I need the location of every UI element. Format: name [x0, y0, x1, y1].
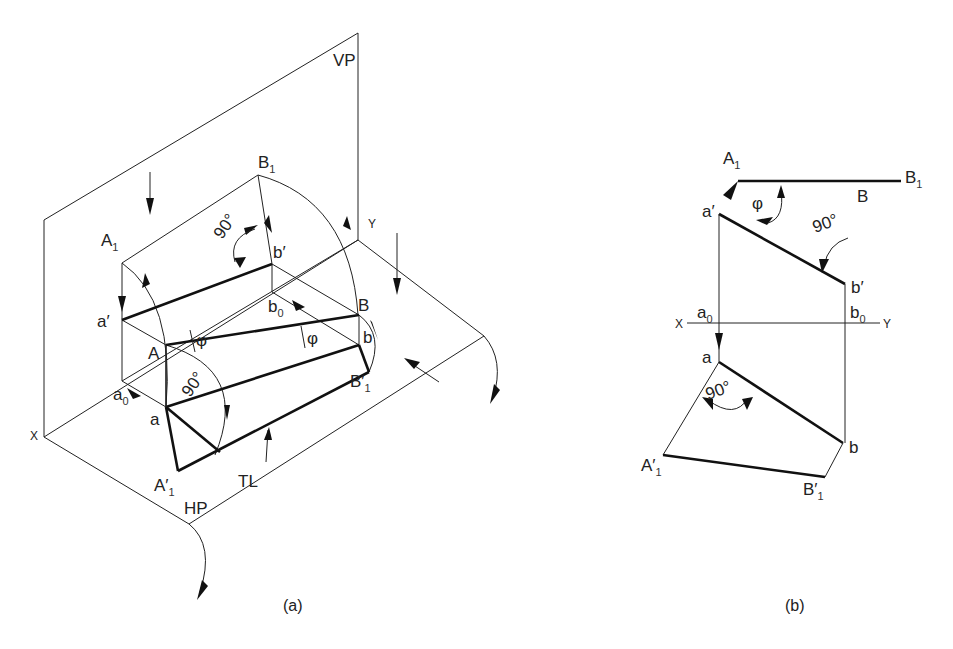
label-b0: b0: [850, 303, 866, 325]
arrowhead-icon: [715, 333, 723, 350]
arrowhead-icon: [197, 580, 208, 600]
label-a: a: [150, 410, 160, 429]
label-A1-prime: A′1: [154, 476, 175, 498]
label-x-axis: X: [30, 429, 38, 443]
label-phi: φ: [752, 194, 763, 213]
label-phi-top: φ: [196, 331, 207, 350]
label-b-prime: b′: [851, 278, 864, 297]
figure-a: VP HP X Y B1 A1 a′ b′ b0 B b A a0 a A′1 …: [30, 33, 500, 614]
arrowhead-icon: [393, 278, 401, 295]
label-hp: HP: [184, 499, 208, 518]
label-A1-prime: A′1: [641, 456, 662, 478]
line-b-prime-B: [272, 264, 359, 315]
label-vp: VP: [333, 51, 356, 70]
arrowhead-icon: [127, 388, 141, 399]
line-a-b: [719, 362, 843, 443]
label-A: A: [148, 344, 160, 363]
arrowhead-icon: [723, 181, 738, 200]
angle-arc-90-top: [234, 229, 255, 262]
arrowhead-icon: [146, 198, 154, 215]
line-A-B: [166, 315, 359, 345]
label-phi-mid: φ: [307, 329, 318, 348]
label-a0: a0: [697, 303, 713, 325]
arrowhead-icon: [118, 296, 126, 312]
line-A1prime-B1prime: [663, 455, 825, 477]
arrowhead-icon: [756, 217, 773, 225]
arc-90-bottom: [166, 345, 225, 455]
line-b-B1prime: [359, 345, 369, 372]
line-a-prime-A: [122, 320, 166, 345]
arrowhead-icon: [490, 384, 500, 404]
label-B1: B1: [905, 168, 922, 190]
arrowhead-icon: [777, 185, 785, 198]
line-A1-B1: [122, 175, 258, 263]
label-A1: A1: [101, 231, 118, 253]
label-B1-prime: B′1: [803, 480, 824, 502]
label-b: b: [849, 438, 858, 457]
line-a0-a: [122, 381, 166, 407]
figure-b: A1 B1 B a′ φ 90° b′ a0 b0 X Y a 90° b A′…: [641, 149, 922, 614]
caption-b: (b): [785, 597, 805, 614]
label-A1: A1: [723, 149, 740, 171]
label-b: b: [363, 328, 372, 347]
label-90-top: 90°: [810, 210, 841, 237]
label-a: a: [702, 348, 712, 367]
arrowhead-icon: [142, 273, 150, 288]
label-a0: a0: [113, 385, 129, 407]
arrowhead-icon: [343, 216, 351, 230]
line-b-B1prime: [825, 443, 843, 477]
phi-dimension-mid: [301, 326, 305, 348]
label-y-axis: Y: [883, 317, 891, 331]
label-B: B: [857, 187, 868, 206]
label-a-prime: a′: [97, 312, 110, 331]
label-b0: b0: [268, 297, 284, 319]
arrowhead-icon: [264, 427, 272, 440]
label-y-axis: Y: [368, 217, 376, 231]
label-a-prime: a′: [702, 202, 715, 221]
line-a-A1prime: [663, 362, 719, 455]
label-true-length: TL: [238, 472, 258, 491]
label-b-prime: b′: [273, 243, 286, 262]
label-B1-prime: B′1: [350, 372, 371, 394]
caption-a: (a): [283, 597, 303, 614]
label-B1: B1: [258, 153, 275, 175]
hp-plane-outline: [44, 240, 484, 524]
line-A1prime-B1prime: [178, 372, 369, 471]
arrowhead-icon: [234, 257, 246, 268]
projection-diagram: VP HP X Y B1 A1 a′ b′ b0 B b A a0 a A′1 …: [0, 0, 953, 649]
projector-b1: [258, 175, 272, 264]
label-90-top: 90°: [210, 210, 240, 242]
label-x-axis: X: [675, 317, 683, 331]
line-a-prime-b-prime: [122, 264, 272, 320]
label-B: B: [358, 296, 369, 315]
